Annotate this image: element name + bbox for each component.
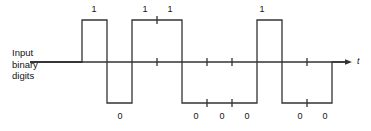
time-axis-label: t — [357, 57, 360, 66]
bit-label-one: 1 — [138, 5, 152, 14]
bit-label-zero: 0 — [113, 112, 127, 121]
bit-label-zero: 0 — [318, 112, 332, 121]
bit-label-zero: 0 — [189, 112, 203, 121]
binary-waveform-figure: Input binary digits t 1111000000 — [0, 0, 371, 131]
y-axis-caption: Input binary digits — [12, 47, 38, 82]
bit-label-zero: 0 — [293, 112, 307, 121]
bit-label-one: 1 — [163, 5, 177, 14]
bit-label-zero: 0 — [215, 112, 229, 121]
waveform-plot — [0, 0, 371, 131]
caption-line-2: binary — [12, 59, 38, 71]
bit-label-one: 1 — [255, 5, 269, 14]
caption-line-3: digits — [12, 70, 38, 82]
bit-label-zero: 0 — [240, 112, 254, 121]
caption-line-1: Input — [12, 47, 38, 59]
bit-label-one: 1 — [87, 5, 101, 14]
